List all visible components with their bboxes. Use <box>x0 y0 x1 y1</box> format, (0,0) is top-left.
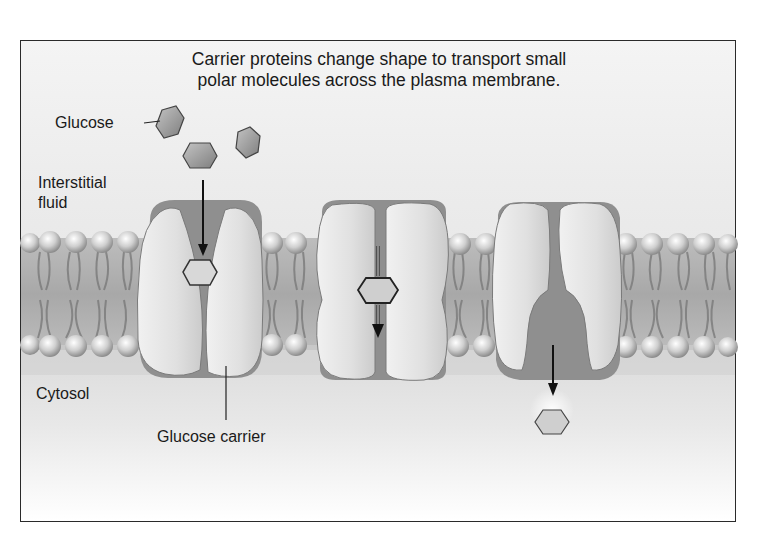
glucose-molecule-released <box>535 410 569 434</box>
diagram-title: Carrier proteins change shape to transpo… <box>0 49 758 91</box>
label-glucose-carrier: Glucose carrier <box>157 427 265 446</box>
glucose-molecule-bound-1 <box>183 260 217 285</box>
glucose-molecule-bound-2 <box>358 278 398 303</box>
glucose-carrier-open-outside <box>137 200 263 378</box>
label-interstitial: Interstitial <box>38 173 106 192</box>
title-line-2: polar molecules across the plasma membra… <box>0 70 758 91</box>
glucose-molecule-free-2 <box>183 143 217 168</box>
glucose-molecule-free-1 <box>156 106 184 138</box>
label-cytosol: Cytosol <box>36 384 89 403</box>
glucose-carrier-open-inside <box>492 202 621 380</box>
label-glucose: Glucose <box>55 113 114 132</box>
glucose-molecule-free-3 <box>236 127 260 158</box>
title-line-1: Carrier proteins change shape to transpo… <box>0 49 758 70</box>
label-fluid: fluid <box>38 193 67 212</box>
